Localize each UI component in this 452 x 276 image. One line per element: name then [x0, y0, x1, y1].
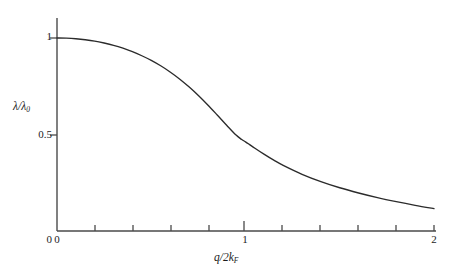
y-axis-title: λ/λ0	[13, 101, 30, 113]
data-series-line	[57, 38, 434, 209]
y-tick-label-1: 1	[38, 31, 52, 42]
x-tick-label-1: 1	[236, 234, 254, 245]
x-axis-title: q/2kF	[214, 252, 238, 264]
x-tick-label-2: 2	[425, 234, 443, 245]
chart-plot-area	[0, 0, 452, 276]
figure-container: 1 0.5 0 0 1 2 λ/λ0 q/2kF	[0, 0, 452, 276]
y-tick-label-0point5: 0.5	[28, 129, 52, 140]
y-axis-ticks	[50, 38, 57, 135]
x-axis-ticks	[95, 221, 434, 231]
x-tick-label-0: 0	[48, 234, 66, 245]
